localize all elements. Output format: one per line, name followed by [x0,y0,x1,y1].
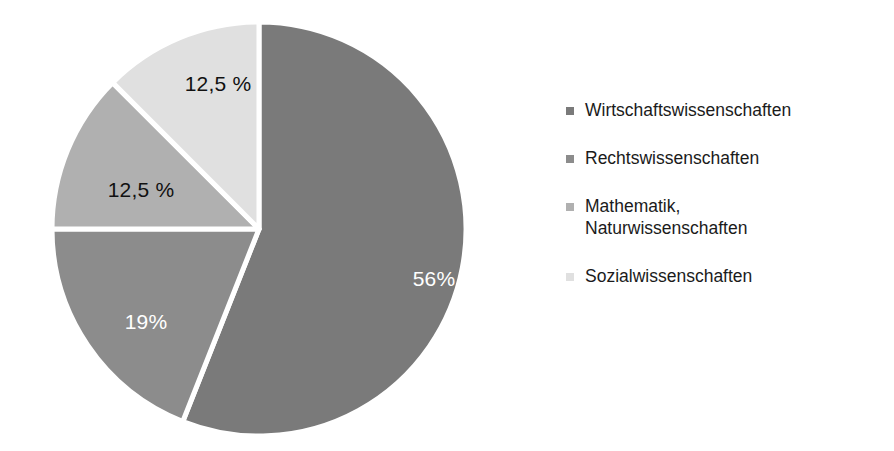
legend-square-marker-icon [566,203,574,211]
legend-square-marker-icon [566,273,574,281]
chart-legend: WirtschaftswissenschaftenRechtswissensch… [566,100,894,287]
legend-item-label: Rechtswissenschaften [585,148,759,170]
legend-item-label: Wirtschaftswissenschaften [585,100,791,122]
legend-square-marker-icon [566,107,574,115]
legend-item[interactable]: Mathematik, Naturwissenschaften [566,196,894,240]
legend-item[interactable]: Sozialwissenschaften [566,266,894,288]
legend-square-marker-icon [566,155,574,163]
legend-item-label: Mathematik, Naturwissenschaften [585,196,747,240]
legend-item[interactable]: Wirtschaftswissenschaften [566,100,894,122]
legend-item[interactable]: Rechtswissenschaften [566,148,894,170]
pie-chart-plot-area: 56%19%12,5 %12,5 % [28,0,498,451]
legend-item-label: Sozialwissenschaften [585,266,752,288]
pie-chart-figure: 56%19%12,5 %12,5 % Wirtschaftswissenscha… [0,0,894,451]
pie-chart-svg [28,0,498,451]
